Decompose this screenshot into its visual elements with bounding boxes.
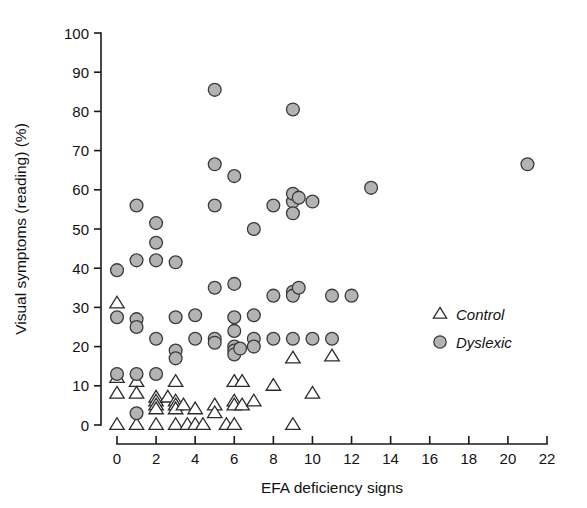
x-axis-tick-label: 2 — [152, 450, 160, 467]
y-axis-tick-label: 60 — [72, 181, 89, 198]
data-point-dyslexic — [326, 289, 339, 302]
data-point-dyslexic — [521, 158, 534, 171]
data-point-dyslexic — [208, 83, 221, 96]
y-axis-tick-label: 90 — [72, 64, 89, 81]
data-point-dyslexic — [208, 158, 221, 171]
y-axis-tick-label: 20 — [72, 338, 89, 355]
data-point-dyslexic — [150, 217, 163, 230]
data-point-dyslexic — [228, 325, 241, 338]
data-point-dyslexic — [228, 277, 241, 290]
data-point-dyslexic — [345, 289, 358, 302]
data-point-dyslexic — [150, 236, 163, 249]
data-point-dyslexic — [130, 407, 143, 420]
y-axis-tick-label: 80 — [72, 103, 89, 120]
x-axis-tick-label: 4 — [191, 450, 199, 467]
data-point-dyslexic — [292, 281, 305, 294]
y-axis-tick-label: 50 — [72, 221, 89, 238]
data-point-dyslexic — [111, 264, 124, 277]
data-point-dyslexic — [208, 199, 221, 212]
data-point-dyslexic — [292, 191, 305, 204]
data-point-dyslexic — [247, 309, 260, 322]
data-point-dyslexic — [228, 170, 241, 183]
x-axis-tick-label: 20 — [500, 450, 517, 467]
y-axis-tick-label: 40 — [72, 260, 89, 277]
data-point-dyslexic — [130, 254, 143, 267]
data-point-dyslexic — [287, 207, 300, 220]
data-point-dyslexic — [208, 281, 221, 294]
data-point-dyslexic — [267, 199, 280, 212]
data-point-dyslexic — [189, 309, 202, 322]
y-axis-tick-label: 10 — [72, 377, 89, 394]
data-point-dyslexic — [326, 332, 339, 345]
x-axis-tick-label: 14 — [382, 450, 399, 467]
x-axis-tick-label: 6 — [230, 450, 238, 467]
x-axis-tick-label: 0 — [113, 450, 121, 467]
scatter-plot-svg: 0102030405060708090100 02468101214161820… — [0, 0, 587, 508]
data-point-dyslexic — [150, 368, 163, 381]
data-point-dyslexic — [150, 332, 163, 345]
data-point-dyslexic — [287, 103, 300, 116]
x-axis-tick-label: 12 — [343, 450, 360, 467]
data-point-dyslexic — [306, 332, 319, 345]
x-axis-tick-label: 8 — [269, 450, 277, 467]
data-point-dyslexic — [150, 254, 163, 267]
data-point-dyslexic — [267, 332, 280, 345]
data-point-dyslexic — [169, 311, 182, 324]
scatter-plot-figure: 0102030405060708090100 02468101214161820… — [0, 0, 587, 508]
x-axis-tick-label: 16 — [421, 450, 438, 467]
data-point-dyslexic — [365, 181, 378, 194]
y-axis-tick-label: 70 — [72, 142, 89, 159]
legend-marker-dyslexic — [434, 336, 446, 348]
y-axis-tick-label: 100 — [64, 25, 89, 42]
data-point-dyslexic — [130, 321, 143, 334]
data-point-dyslexic — [130, 199, 143, 212]
data-point-dyslexic — [111, 311, 124, 324]
data-point-dyslexic — [111, 368, 124, 381]
x-axis-tick-label: 18 — [460, 450, 477, 467]
data-point-dyslexic — [169, 352, 182, 365]
data-point-dyslexic — [189, 332, 202, 345]
data-point-dyslexic — [130, 368, 143, 381]
data-point-dyslexic — [234, 342, 247, 355]
data-point-dyslexic — [267, 289, 280, 302]
data-point-dyslexic — [287, 332, 300, 345]
data-point-dyslexic — [306, 195, 319, 208]
y-axis-tick-label: 0 — [81, 417, 89, 434]
x-axis-tick-label: 22 — [539, 450, 556, 467]
legend-label-dyslexic: Dyslexic — [456, 334, 512, 351]
x-axis-label: EFA deficiency signs — [261, 479, 403, 496]
y-axis-label: Visual symptoms (reading) (%) — [12, 123, 29, 335]
data-point-dyslexic — [169, 256, 182, 269]
x-axis-tick-label: 10 — [304, 450, 321, 467]
legend-label-control: Control — [456, 306, 505, 323]
data-point-dyslexic — [228, 311, 241, 324]
y-axis-tick-label: 30 — [72, 299, 89, 316]
data-point-dyslexic — [247, 340, 260, 353]
data-point-dyslexic — [208, 336, 221, 349]
data-point-dyslexic — [247, 223, 260, 236]
